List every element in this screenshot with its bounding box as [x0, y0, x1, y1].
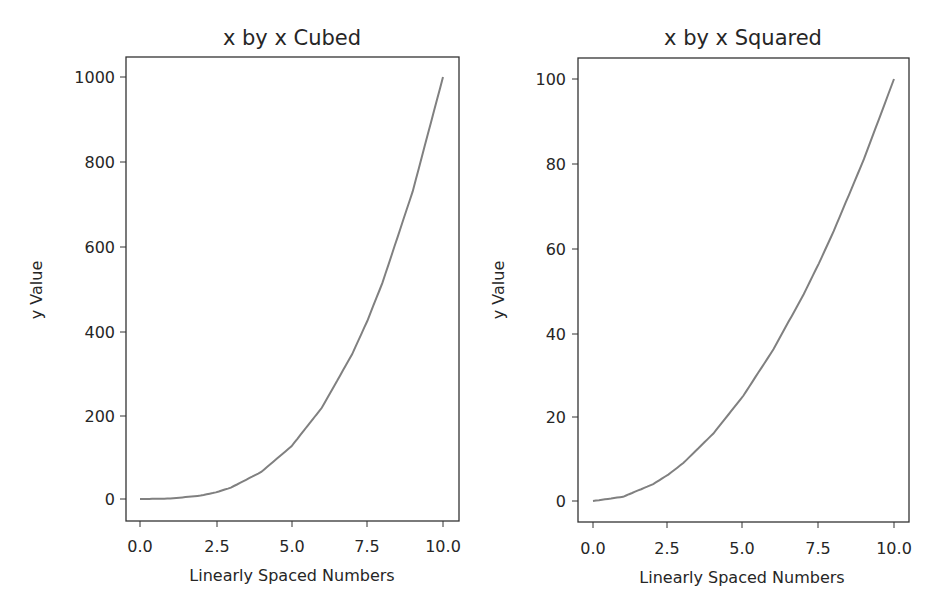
figure: x by x Cubed 0 200 400 600 800 1000	[0, 0, 930, 613]
x-axis-label: Linearly Spaced Numbers	[639, 568, 844, 587]
chart-canvas: x by x Cubed 0 200 400 600 800 1000	[0, 0, 930, 613]
x-tick-label: 2.5	[654, 539, 679, 558]
x-tick-label: 7.5	[354, 537, 379, 556]
y-tick-label: 0	[105, 490, 115, 509]
x-tick-label: 7.5	[805, 539, 830, 558]
x-tick-label: 5.0	[729, 539, 754, 558]
y-axis-ticks: 0 200 400 600 800 1000	[74, 68, 126, 509]
y-tick-label: 40	[546, 325, 566, 344]
x-tick-label: 5.0	[279, 537, 304, 556]
data-line-cubed	[140, 77, 443, 499]
y-axis-label: y Value	[489, 261, 508, 320]
y-tick-label: 800	[84, 153, 115, 172]
y-tick-label: 20	[546, 408, 566, 427]
plot-area-frame	[578, 58, 909, 522]
x-tick-label: 10.0	[425, 537, 461, 556]
y-tick-label: 200	[84, 407, 115, 426]
chart-title: x by x Cubed	[223, 26, 361, 50]
x-axis-label: Linearly Spaced Numbers	[189, 566, 394, 585]
y-tick-label: 400	[84, 323, 115, 342]
x-tick-label: 0.0	[127, 537, 152, 556]
x-axis-ticks: 0.0 2.5 5.0 7.5 10.0	[127, 521, 461, 556]
y-tick-label: 600	[84, 238, 115, 257]
y-tick-label: 100	[535, 70, 566, 89]
x-tick-label: 10.0	[876, 539, 912, 558]
y-axis-label: y Value	[27, 261, 46, 320]
y-tick-label: 0	[556, 492, 566, 511]
y-tick-label: 1000	[74, 68, 115, 87]
x-tick-label: 2.5	[204, 537, 229, 556]
plot-area-frame	[126, 57, 459, 521]
y-axis-ticks: 0 20 40 60 80 100	[535, 70, 578, 511]
y-tick-label: 80	[546, 155, 566, 174]
data-line-squared	[593, 79, 894, 501]
chart-title: x by x Squared	[664, 26, 822, 50]
y-tick-label: 60	[546, 240, 566, 259]
subplot-squared: x by x Squared 0 20 40 60 80 100	[489, 26, 912, 587]
subplot-cubed: x by x Cubed 0 200 400 600 800 1000	[27, 26, 461, 585]
x-tick-label: 0.0	[580, 539, 605, 558]
x-axis-ticks: 0.0 2.5 5.0 7.5 10.0	[580, 522, 912, 558]
